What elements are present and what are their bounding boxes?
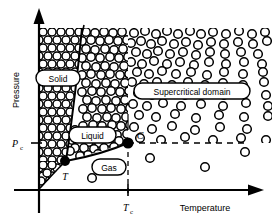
phase-diagram-canvas: Pressure Temperature P c T c T C Solid L… bbox=[0, 0, 273, 223]
critical-point-marker bbox=[123, 138, 134, 149]
critical-point-label: C bbox=[137, 130, 144, 141]
x-axis-arrowhead bbox=[248, 185, 264, 196]
region-label-gas: Gas bbox=[92, 159, 126, 175]
liquid-label-text: Liquid bbox=[81, 131, 104, 141]
supercritical-label-text: Supercritical domain bbox=[153, 87, 230, 97]
y-axis-title: Pressure bbox=[11, 72, 21, 108]
tc-label: T c bbox=[123, 202, 133, 216]
pc-label: P c bbox=[11, 138, 23, 152]
tc-label-subscript: c bbox=[130, 208, 133, 216]
triple-point-marker bbox=[60, 156, 70, 166]
gas-label-text: Gas bbox=[101, 163, 117, 173]
region-label-liquid: Liquid bbox=[69, 127, 116, 143]
tc-label-main: T bbox=[123, 202, 130, 213]
region-label-supercritical: Supercritical domain bbox=[134, 83, 250, 99]
triple-point-label: T bbox=[62, 171, 69, 182]
region-label-solid: Solid bbox=[36, 70, 80, 86]
pc-label-main: P bbox=[11, 138, 18, 149]
solid-label-text: Solid bbox=[49, 74, 68, 84]
x-axis-title: Temperature bbox=[180, 203, 231, 213]
phase-diagram: Pressure Temperature P c T c T C Solid L… bbox=[0, 0, 273, 223]
y-axis-arrowhead bbox=[34, 8, 45, 24]
pc-label-subscript: c bbox=[20, 144, 23, 152]
